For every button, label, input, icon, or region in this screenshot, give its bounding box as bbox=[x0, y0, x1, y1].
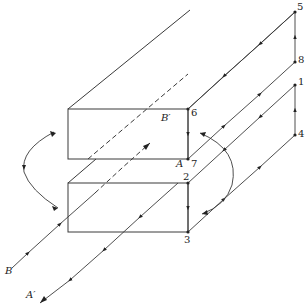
lower-block bbox=[68, 159, 188, 232]
segment-3-4 bbox=[188, 135, 295, 232]
label-point-4: 4 bbox=[298, 128, 304, 139]
line-a-aprime bbox=[40, 183, 178, 303]
label-a-prime: A′ bbox=[25, 289, 36, 300]
right-curved-arrow bbox=[200, 133, 233, 214]
label-a: A bbox=[175, 158, 183, 169]
loop-1234 bbox=[188, 85, 295, 232]
label-point-8: 8 bbox=[298, 54, 304, 65]
label-point-5: 5 bbox=[297, 1, 303, 12]
label-point-6: 6 bbox=[191, 107, 197, 118]
upper-block-hidden-edge bbox=[88, 74, 188, 159]
upper-block-back-edge bbox=[68, 10, 190, 109]
label-point-3: 3 bbox=[184, 234, 190, 245]
label-point-1: 1 bbox=[298, 76, 304, 87]
lower-block-left-top-edge bbox=[68, 159, 96, 183]
line-b-bprime bbox=[12, 143, 150, 268]
twin-block-diagram: 5 8 1 4 6 7 2 3 A A′ B B′ bbox=[0, 0, 307, 307]
upper-block bbox=[68, 10, 190, 159]
left-curved-arrow bbox=[24, 132, 58, 208]
label-point-7: 7 bbox=[191, 158, 197, 169]
label-point-2: 2 bbox=[183, 171, 189, 182]
label-b-prime: B′ bbox=[160, 112, 171, 123]
label-b: B bbox=[4, 265, 12, 276]
loop-5678 bbox=[188, 12, 295, 159]
segment-7-8 bbox=[188, 62, 295, 159]
